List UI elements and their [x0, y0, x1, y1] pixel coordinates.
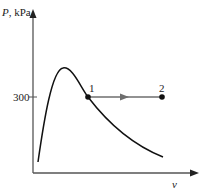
x-axis-label: v — [172, 178, 177, 190]
process-direction-arrow-icon — [120, 94, 129, 101]
state-label-2: 2 — [159, 82, 165, 94]
state-point-2 — [159, 94, 165, 100]
y-tick-label-300: 300 — [13, 91, 30, 103]
saturation-curve — [38, 68, 163, 162]
pv-diagram: P, kPa v 300 1 2 — [0, 0, 203, 191]
x-axis-arrow-icon — [190, 170, 199, 177]
state-label-1: 1 — [89, 82, 95, 94]
state-point-1 — [85, 94, 91, 100]
y-axis-label: P, kPa — [1, 6, 31, 18]
